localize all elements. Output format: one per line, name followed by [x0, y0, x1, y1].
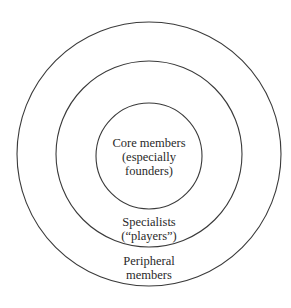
- core-label-line-1: Core members: [112, 136, 185, 150]
- concentric-diagram: Core members (especially founders) Speci…: [0, 0, 291, 308]
- core-label-line-2: (especially: [122, 150, 177, 164]
- specialists-label: Specialists (“players”): [121, 215, 177, 243]
- specialists-label-line-2: (“players”): [121, 229, 177, 243]
- core-label: Core members (especially founders): [112, 136, 185, 178]
- peripheral-label-line-1: Peripheral: [123, 254, 175, 268]
- specialists-label-line-1: Specialists: [122, 215, 176, 229]
- peripheral-label-line-2: members: [126, 268, 172, 282]
- peripheral-label: Peripheral members: [123, 254, 175, 282]
- core-label-line-3: founders): [125, 164, 173, 178]
